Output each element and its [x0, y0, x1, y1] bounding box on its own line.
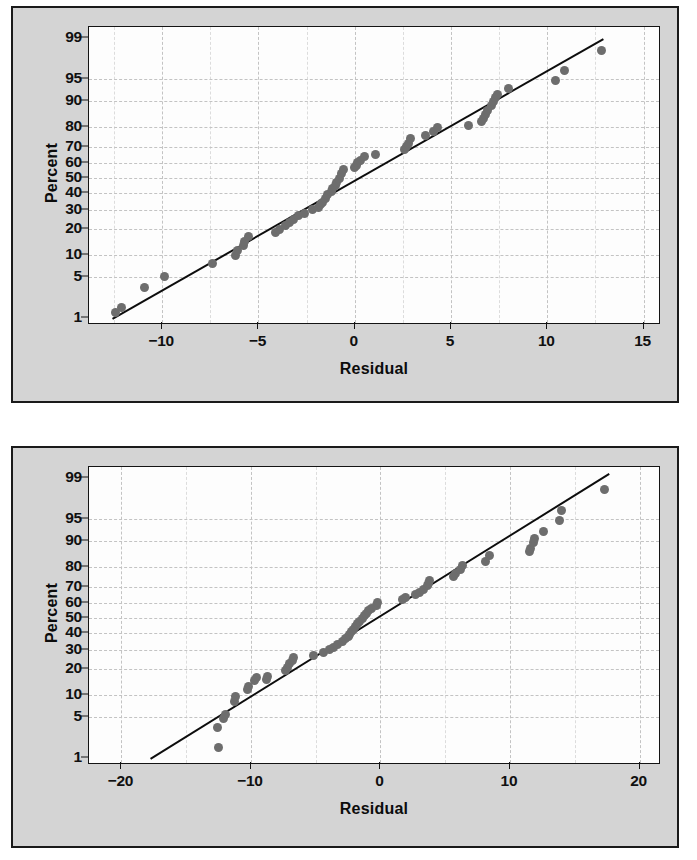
y-axis-tick-label: 80 — [65, 557, 82, 575]
vertical-gridline — [258, 27, 259, 323]
horizontal-gridline — [89, 587, 659, 588]
horizontal-gridline — [89, 541, 659, 542]
vertical-gridline — [575, 467, 576, 763]
y-axis-tick-label: 30 — [65, 640, 82, 658]
horizontal-gridline — [89, 669, 659, 670]
y-axis-tick-mark — [81, 716, 88, 717]
x-axis-tick-mark — [546, 322, 547, 329]
y-axis-tick-label: 99 — [65, 28, 82, 46]
y-axis-tick-mark — [81, 192, 88, 193]
horizontal-gridline — [89, 210, 659, 211]
data-point — [539, 527, 548, 536]
y-axis-title-bottom: Percent — [43, 573, 61, 653]
y-axis-tick-label: 90 — [65, 531, 82, 549]
y-axis-tick-mark — [81, 566, 88, 567]
data-point — [208, 259, 217, 268]
data-point — [551, 76, 560, 85]
y-axis-tick-label: 30 — [65, 200, 82, 218]
data-point — [555, 516, 564, 525]
data-point — [485, 551, 494, 560]
y-axis-title-top: Percent — [43, 133, 61, 213]
y-axis-tick-mark — [81, 667, 88, 668]
y-axis-tick-label: 95 — [65, 509, 82, 527]
y-axis-tick-mark — [81, 757, 88, 758]
data-point — [406, 134, 415, 143]
data-point — [433, 123, 442, 132]
horizontal-gridline — [89, 567, 659, 568]
data-point — [213, 723, 222, 732]
vertical-gridline — [316, 467, 317, 763]
x-axis-tick-label: 0 — [350, 332, 358, 350]
y-axis-tick-mark — [81, 601, 88, 602]
normal-probability-plot-top: 151020304050607080909599 −10−5051015 Per… — [11, 6, 679, 403]
y-axis-tick-mark — [81, 540, 88, 541]
x-axis-tick-mark — [250, 762, 251, 769]
x-axis-tick-label: 10 — [538, 332, 555, 350]
x-axis-tick-label: 0 — [375, 772, 383, 790]
vertical-gridline — [210, 27, 211, 323]
horizontal-gridline — [89, 717, 659, 718]
vertical-gridline — [114, 27, 115, 323]
y-axis-tick-mark — [81, 276, 88, 277]
horizontal-gridline — [89, 79, 659, 80]
vertical-gridline — [307, 27, 308, 323]
horizontal-gridline — [89, 695, 659, 696]
y-axis-tick-label: 80 — [65, 117, 82, 135]
normal-probability-plot-bottom: 151020304050607080909599 −20−1001020 Per… — [11, 446, 679, 848]
data-point — [560, 66, 569, 75]
y-axis-tick-label: 95 — [65, 69, 82, 87]
y-axis-tick-label: 20 — [65, 219, 82, 237]
data-point — [425, 576, 434, 585]
vertical-gridline — [251, 467, 252, 763]
y-axis-tick-mark — [81, 177, 88, 178]
x-axis-tick-mark — [509, 762, 510, 769]
y-axis-tick-label: 10 — [65, 245, 82, 263]
x-axis-tick-mark — [379, 762, 380, 769]
horizontal-gridline — [89, 519, 659, 520]
y-axis-tick-label: 60 — [65, 593, 82, 611]
vertical-gridline — [510, 467, 511, 763]
data-point — [117, 303, 126, 312]
x-axis-tick-mark — [643, 322, 644, 329]
y-axis-tick-mark — [81, 161, 88, 162]
data-point — [557, 506, 566, 515]
vertical-gridline — [499, 27, 500, 323]
vertical-gridline — [186, 467, 187, 763]
x-axis-tick-label: 20 — [630, 772, 647, 790]
x-axis-tick-mark — [450, 322, 451, 329]
horizontal-gridline — [89, 101, 659, 102]
x-axis-tick-mark — [354, 322, 355, 329]
data-point — [600, 485, 609, 494]
horizontal-gridline — [89, 277, 659, 278]
y-axis-tick-mark — [81, 585, 88, 586]
vertical-gridline — [640, 467, 641, 763]
data-point — [371, 150, 380, 159]
horizontal-gridline — [89, 229, 659, 230]
x-axis-tick-label: −10 — [237, 772, 263, 790]
y-axis-tick-label: 99 — [65, 468, 82, 486]
data-point — [597, 46, 606, 55]
vertical-gridline — [595, 27, 596, 323]
data-point — [309, 651, 318, 660]
y-axis-tick-mark — [81, 632, 88, 633]
y-axis-tick-label: 20 — [65, 659, 82, 677]
x-axis-title-top: Residual — [88, 360, 660, 378]
data-point — [339, 165, 348, 174]
x-axis-tick-mark — [639, 762, 640, 769]
y-axis-tick-mark — [81, 518, 88, 519]
horizontal-gridline — [89, 127, 659, 128]
data-point — [231, 692, 240, 701]
x-axis-tick-label: −5 — [249, 332, 266, 350]
y-axis-tick-mark — [81, 126, 88, 127]
horizontal-gridline — [89, 255, 659, 256]
y-axis-tick-mark — [81, 648, 88, 649]
data-point — [160, 272, 169, 281]
x-axis-tick-mark — [120, 762, 121, 769]
x-axis-tick-label: 15 — [634, 332, 651, 350]
y-axis-tick-label: 70 — [65, 577, 82, 595]
vertical-gridline — [355, 27, 356, 323]
y-axis-tick-mark — [81, 694, 88, 695]
y-axis-tick-label: 70 — [65, 137, 82, 155]
y-axis-tick-mark — [81, 100, 88, 101]
data-point — [464, 121, 473, 130]
